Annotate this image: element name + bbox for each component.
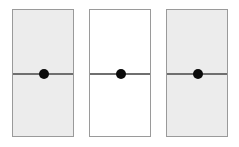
panel-3 xyxy=(166,9,228,137)
panel-2 xyxy=(89,9,151,137)
center-dot xyxy=(116,69,126,79)
center-dot xyxy=(39,69,49,79)
panel-1 xyxy=(12,9,74,137)
center-dot xyxy=(193,69,203,79)
